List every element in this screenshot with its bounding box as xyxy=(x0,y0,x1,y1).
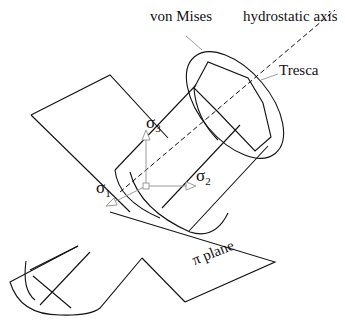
principal-axes xyxy=(106,130,196,206)
tresca-label: Tresca xyxy=(279,62,318,79)
sigma2-label: σ2 xyxy=(196,166,211,187)
lower-cylinder xyxy=(10,246,142,315)
pi-plane-left-edge xyxy=(31,115,130,212)
tresca-leader xyxy=(261,74,278,80)
hydrostatic-axis-line xyxy=(120,10,335,192)
diagram-graphics xyxy=(0,0,345,327)
von-mises-label: von Mises xyxy=(150,8,212,25)
von-mises-leader xyxy=(186,36,202,50)
yield-surface-diagram: von Mises hydrostatic axis Tresca σ3 σ2 … xyxy=(0,0,345,327)
sigma1-label: σ1 xyxy=(96,178,111,199)
hydrostatic-axis-label: hydrostatic axis xyxy=(243,8,338,25)
sigma3-label: σ3 xyxy=(146,113,161,134)
